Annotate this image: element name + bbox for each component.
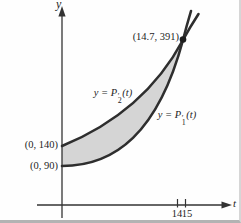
- lower-intercept-label: (0, 90): [8, 160, 58, 172]
- upper-curve-equation-label: y = P′2(t): [84, 87, 142, 104]
- upper-intercept-label: (0, 140): [8, 139, 58, 151]
- x-axis-arrowhead: [222, 201, 233, 208]
- upper-eq-post: (t): [122, 87, 132, 98]
- x-tick-label-15: 15: [179, 208, 195, 220]
- lower-eq-post: (t): [186, 109, 196, 120]
- upper-eq-pre: y = P: [94, 87, 117, 98]
- lower-eq-pre: y = P: [158, 109, 181, 120]
- derivative-curves-figure: y t 14 15 (14.7, 391) (0, 140) (0, 90) y…: [0, 0, 241, 223]
- x-axis-label: t: [233, 197, 236, 209]
- intersection-point-dot: [180, 36, 187, 43]
- lower-curve-equation-label: y = P′1(t): [147, 109, 207, 126]
- intersection-point-label: (14.7, 391): [118, 31, 179, 43]
- y-axis-label: y: [56, 0, 61, 11]
